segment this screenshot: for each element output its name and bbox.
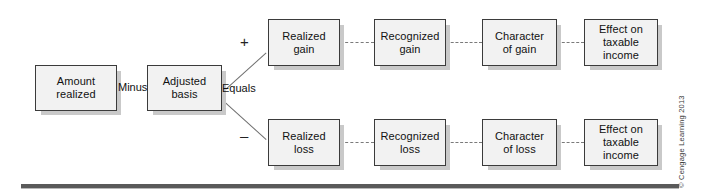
node-effect-on-taxable-income-loss: Effect on taxable income — [584, 119, 658, 166]
node-recognized-loss-line2: loss — [380, 143, 439, 156]
node-recognized-gain-line2: gain — [380, 43, 439, 56]
node-effect-gain-line2: taxable — [599, 36, 643, 49]
node-amount-realized-line2: realized — [56, 88, 95, 101]
operator-plus-sign: + — [240, 34, 249, 49]
node-effect-on-taxable-income-gain: Effect on taxable income — [584, 19, 658, 66]
node-recognized-gain: Recognized gain — [374, 19, 446, 66]
node-realized-gain-line1: Realized — [282, 30, 326, 43]
node-recognized-loss: Recognized loss — [374, 119, 446, 166]
node-adjusted-basis-line1: Adjusted — [163, 75, 207, 88]
node-recognized-loss-line1: Recognized — [380, 130, 439, 143]
node-adjusted-basis-line2: basis — [163, 88, 207, 101]
connector-character-to-effect-loss — [557, 142, 584, 143]
node-recognized-gain-line1: Recognized — [380, 30, 439, 43]
connector-realized-to-recognized-loss — [340, 142, 374, 143]
node-character-of-gain-line2: of gain — [495, 43, 544, 56]
node-realized-gain-line2: gain — [282, 43, 326, 56]
connector-recognized-to-character-gain — [446, 42, 482, 43]
bottom-divider — [21, 184, 679, 188]
node-effect-loss-line3: income — [599, 149, 643, 162]
operator-minus-sign: – — [240, 128, 248, 143]
node-effect-loss-line1: Effect on — [599, 123, 643, 136]
node-adjusted-basis: Adjusted basis — [147, 65, 222, 111]
node-realized-loss-line2: loss — [282, 143, 326, 156]
node-character-of-gain: Character of gain — [482, 19, 557, 66]
node-character-of-loss-line2: of loss — [495, 143, 544, 156]
node-effect-loss-line2: taxable — [599, 136, 643, 149]
node-realized-loss-line1: Realized — [282, 130, 326, 143]
copyright-credit: © Cengage Learning 2013 — [678, 95, 686, 188]
node-realized-loss: Realized loss — [268, 119, 340, 166]
node-character-of-loss-line1: Character — [495, 130, 544, 143]
connector-realized-to-recognized-gain — [340, 42, 374, 43]
connector-recognized-to-character-loss — [446, 142, 482, 143]
node-realized-gain: Realized gain — [268, 19, 340, 66]
node-amount-realized: Amount realized — [35, 65, 117, 111]
node-effect-gain-line3: income — [599, 49, 643, 62]
operator-minus-label: Minus — [118, 81, 147, 94]
node-amount-realized-line1: Amount — [56, 75, 95, 88]
operator-equals-label: Equals — [222, 82, 256, 95]
connector-character-to-effect-gain — [557, 42, 584, 43]
diagram-canvas: Amount realized Minus Adjusted basis Equ… — [0, 0, 701, 194]
node-effect-gain-line1: Effect on — [599, 23, 643, 36]
node-character-of-loss: Character of loss — [482, 119, 557, 166]
node-character-of-gain-line1: Character — [495, 30, 544, 43]
